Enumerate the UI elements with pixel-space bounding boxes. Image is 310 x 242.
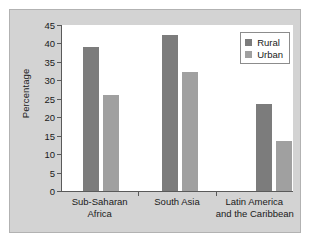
y-axis-tick-label: 25 (35, 93, 55, 104)
legend-item-urban: Urban (245, 48, 283, 60)
y-axis-tick-mark (57, 25, 61, 26)
y-axis-tick-mark (57, 173, 61, 174)
category-label-line: Africa (61, 208, 138, 220)
y-axis-tick-label: 0 (35, 186, 55, 197)
y-axis-tick-mark (57, 62, 61, 63)
bar-urban-0 (103, 95, 119, 191)
y-axis-tick-label: 40 (35, 38, 55, 49)
y-axis-tick-label: 35 (35, 56, 55, 67)
bar-urban-1 (182, 72, 198, 191)
category-label-line: Latin America (216, 196, 293, 208)
bar-rural-1 (162, 35, 178, 191)
y-axis-tick-label: 20 (35, 112, 55, 123)
y-axis-tick-label: 10 (35, 149, 55, 160)
chart-figure: Percentage 051015202530354045 RuralUrban… (0, 0, 310, 242)
plot-inner: 051015202530354045 RuralUrban (61, 25, 293, 192)
y-axis-tick-label: 5 (35, 167, 55, 178)
y-axis-tick-mark (57, 99, 61, 100)
bar-rural-2 (256, 104, 272, 191)
y-axis-tick-mark (57, 136, 61, 137)
legend-label: Rural (257, 37, 280, 48)
y-axis-tick-mark (57, 117, 61, 118)
y-axis-tick-label: 30 (35, 75, 55, 86)
chart-panel: Percentage 051015202530354045 RuralUrban… (9, 9, 301, 233)
category-label: Sub-SaharanAfrica (61, 196, 138, 219)
chart-legend: RuralUrban (240, 32, 290, 64)
y-axis-tick-label: 45 (35, 20, 55, 31)
y-axis-title: Percentage (20, 49, 31, 139)
category-label-line: Sub-Saharan (61, 196, 138, 208)
legend-swatch-rural (245, 39, 252, 46)
category-label-line: South Asia (138, 196, 215, 208)
y-axis-tick-mark (57, 191, 61, 192)
category-label: Latin Americaand the Caribbean (216, 196, 293, 219)
bar-urban-2 (276, 141, 292, 191)
y-axis-line (61, 25, 62, 192)
y-axis-tick-label: 15 (35, 130, 55, 141)
plot-area: 051015202530354045 RuralUrban (61, 25, 293, 192)
x-axis-line (61, 191, 293, 192)
bar-rural-0 (83, 47, 99, 191)
legend-item-rural: Rural (245, 36, 283, 48)
legend-label: Urban (257, 49, 283, 60)
y-axis-tick-mark (57, 43, 61, 44)
category-label-line: and the Caribbean (216, 208, 293, 220)
y-axis-tick-mark (57, 154, 61, 155)
category-label: South Asia (138, 196, 215, 208)
legend-swatch-urban (245, 51, 252, 58)
y-axis-tick-mark (57, 80, 61, 81)
